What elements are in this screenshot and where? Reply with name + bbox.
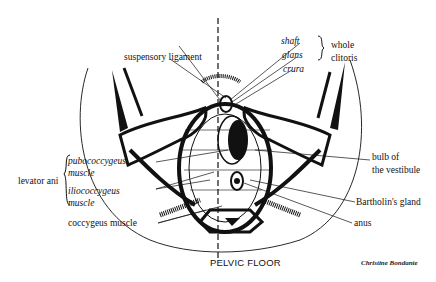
artist-credit: Christine Bondante [361,259,418,267]
label-bartholins-gland: Bartholin's gland [356,197,421,208]
label-whole-clitoris-1: whole [331,40,354,51]
label-iliococcygeus-1: iliococcygeus [68,186,120,197]
label-glans: glans [282,50,303,61]
label-pubococcygeus-2: muscle [68,168,94,179]
label-bulb-vestibule-2: the vestibule [372,165,420,176]
diagram-title: PELVIC FLOOR [210,257,281,268]
pelvic-floor-diagram: suspensory ligament shaft glans crura wh… [0,0,436,282]
label-crura: crura [283,64,304,75]
label-iliococcygeus-2: muscle [68,198,94,209]
label-suspensory-ligament: suspensory ligament [124,52,202,63]
label-coccygeus-muscle: coccygeus muscle [68,218,137,229]
label-whole-clitoris-2: clitoris [331,53,357,64]
label-shaft: shaft [281,36,299,47]
label-bulb-vestibule-1: bulb of [372,152,399,163]
label-pubococcygeus-1: pubococcygeus [68,156,126,167]
label-anus: anus [354,218,371,229]
pelvic-floor-illustration [0,0,436,282]
label-levator-ani: levator ani [18,176,58,187]
